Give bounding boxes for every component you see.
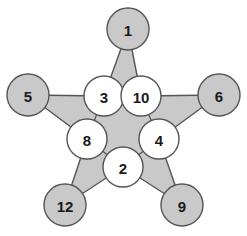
star-node-upper-right[interactable]: 10 [121,76,161,116]
node-circle[interactable] [44,184,86,226]
node-circle[interactable] [107,8,149,50]
star-node-upper-left[interactable]: 3 [84,76,124,116]
star-node-right[interactable]: 6 [198,74,240,116]
node-circle[interactable] [84,76,124,116]
star-node-bottom-right[interactable]: 9 [161,184,203,226]
node-circle[interactable] [198,74,240,116]
star-graphic: 1 5 6 12 9 3 [0,0,247,236]
star-node-bottom-center[interactable]: 2 [103,147,143,187]
node-circle[interactable] [7,74,49,116]
node-circle[interactable] [67,119,107,159]
star-node-left[interactable]: 5 [7,74,49,116]
star-node-top[interactable]: 1 [107,8,149,50]
star-node-bottom-left[interactable]: 12 [44,184,86,226]
star-node-mid-left[interactable]: 8 [67,119,107,159]
node-circle[interactable] [103,147,143,187]
node-circle[interactable] [161,184,203,226]
star-node-mid-right[interactable]: 4 [139,119,179,159]
node-circle[interactable] [121,76,161,116]
node-circle[interactable] [139,119,179,159]
star-diagram: 1 5 6 12 9 3 [0,0,247,236]
